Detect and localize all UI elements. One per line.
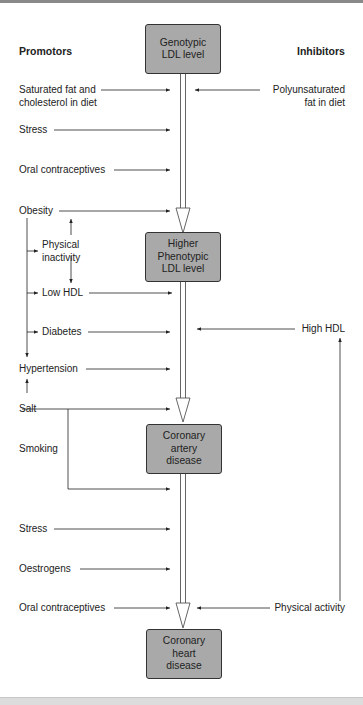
label-stress-1: Stress	[19, 124, 47, 137]
label-stress-2: Stress	[19, 523, 47, 536]
label-cholesterol-in-diet: cholesterol in diet	[19, 97, 97, 110]
box-coronary-artery-disease: Coronary artery disease	[146, 424, 222, 474]
label-saturated-fat: Saturated fat and	[19, 84, 96, 97]
bottom-border	[0, 697, 363, 705]
label-high-hdl: High HDL	[302, 323, 345, 336]
box-coronary-heart-disease: Coronary heart disease	[146, 629, 222, 679]
box-chd-label: Coronary heart disease	[163, 635, 205, 673]
label-obesity: Obesity	[19, 205, 53, 218]
label-inactivity: inactivity	[42, 252, 80, 265]
label-smoking: Smoking	[19, 443, 58, 456]
box-phenotypic-ldl: Higher Phenotypic LDL level	[145, 232, 221, 282]
label-salt: Salt	[19, 403, 36, 416]
label-low-hdl: Low HDL	[42, 287, 83, 300]
label-fat-in-diet: fat in diet	[304, 97, 345, 110]
label-physical-activity: Physical activity	[274, 602, 345, 615]
box-genotypic-label: Genotypic LDL level	[160, 37, 206, 62]
label-oral-contraceptives-1: Oral contraceptives	[19, 164, 105, 177]
label-hypertension: Hypertension	[19, 363, 78, 376]
box-genotypic-ldl: Genotypic LDL level	[145, 24, 221, 74]
box-phenotypic-label: Higher Phenotypic LDL level	[158, 238, 209, 276]
box-cad-label: Coronary artery disease	[163, 430, 205, 468]
label-physical: Physical	[42, 239, 79, 252]
label-oestrogens: Oestrogens	[19, 563, 71, 576]
label-polyunsaturated: Polyunsaturated	[273, 84, 345, 97]
label-oral-contraceptives-2: Oral contraceptives	[19, 602, 105, 615]
label-diabetes: Diabetes	[42, 326, 81, 339]
